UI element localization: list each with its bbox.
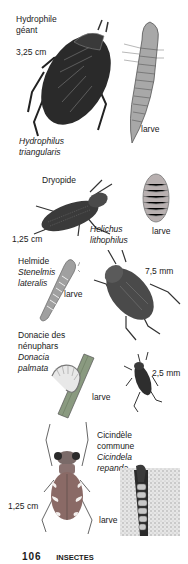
donacie-larva-label: larve <box>92 392 110 402</box>
donacie-size: 2,5 mm <box>152 368 180 378</box>
hydrophile-beetle-illustration <box>24 12 114 137</box>
cicindele-larva-label: larve <box>99 515 117 525</box>
dryopide-scientific-name-line1: Helichus <box>90 224 123 234</box>
page-footer: 106 INSECTES <box>22 546 94 564</box>
donacie-common-name-line1: Donacie des <box>18 330 65 340</box>
page-number: 106 <box>22 551 42 562</box>
dryopide-larva-illustration <box>140 172 172 226</box>
hydrophile-scientific-name-line1: Hydrophilus <box>19 136 64 146</box>
donacie-scientific-name-line1: Donacia <box>18 352 49 362</box>
donacie-larva-on-stem-illustration <box>48 350 98 420</box>
section-title: INSECTES <box>56 553 94 562</box>
cicindele-larva-burrow-illustration <box>118 462 182 540</box>
donacie-beetle-illustration <box>122 352 166 414</box>
donacie-scientific-name-line2: palmata <box>18 363 48 373</box>
cicindele-common-name-line2: commune <box>97 441 134 451</box>
dryopide-larva-label: larve <box>152 226 170 236</box>
hydrophile-larva-label: larve <box>141 124 159 134</box>
helmide-larva-label: larve <box>64 289 82 299</box>
cicindele-common-name-line1: Cicindèle <box>97 430 132 440</box>
hydrophile-scientific-name-line2: triangularis <box>19 147 61 157</box>
dryopide-size: 1,25 cm <box>12 234 42 244</box>
dryopide-scientific-name-line2: lithophilus <box>90 235 128 245</box>
helmide-beetle-illustration <box>86 250 184 346</box>
cicindele-scientific-name-line1: Cicindela <box>97 452 132 462</box>
cicindele-size: 1,25 cm <box>8 501 38 511</box>
cicindele-beetle-illustration <box>38 420 96 538</box>
